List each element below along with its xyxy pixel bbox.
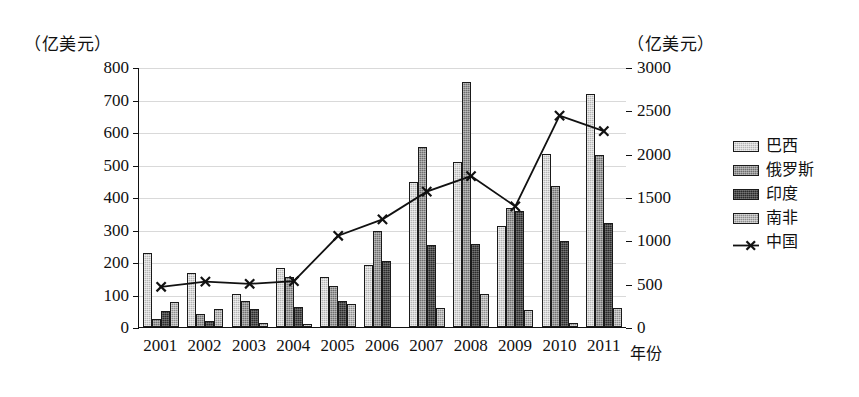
bar-group bbox=[360, 68, 404, 327]
x-axis-tick-label: 2001 bbox=[138, 333, 182, 359]
x-axis-tick-label: 2002 bbox=[182, 333, 226, 359]
right-axis-tick bbox=[626, 241, 632, 242]
bar bbox=[250, 309, 259, 327]
left-axis-tick-label: 300 bbox=[104, 222, 130, 239]
bar-groups bbox=[139, 68, 626, 327]
right-axis-tick bbox=[626, 198, 632, 199]
legend-line-marker-icon bbox=[733, 237, 759, 248]
chart-figure: （亿美元） （亿美元） 0100200300400500600700800 05… bbox=[0, 0, 859, 397]
bar bbox=[453, 162, 462, 327]
right-axis-tick-label: 2500 bbox=[637, 102, 671, 119]
x-axis-tick-label: 2005 bbox=[315, 333, 359, 359]
bar bbox=[436, 308, 445, 327]
bar bbox=[586, 94, 595, 327]
legend-swatch-icon bbox=[733, 141, 759, 152]
bar bbox=[604, 223, 613, 327]
left-axis-tick-label: 0 bbox=[121, 319, 130, 336]
x-axis-tick-label: 2006 bbox=[360, 333, 404, 359]
bar bbox=[170, 302, 179, 327]
legend-item-label: 印度 bbox=[766, 186, 798, 202]
bar bbox=[569, 323, 578, 327]
bar-group bbox=[493, 68, 537, 327]
bar bbox=[497, 226, 506, 327]
x-axis-tick-label: 2009 bbox=[493, 333, 537, 359]
right-axis-tick bbox=[626, 285, 632, 286]
bar-group bbox=[582, 68, 626, 327]
bar bbox=[347, 304, 356, 327]
bar bbox=[471, 244, 480, 327]
bar bbox=[462, 82, 471, 327]
bar bbox=[560, 241, 569, 327]
right-axis-tick bbox=[626, 111, 632, 112]
legend-item[interactable]: 南非 bbox=[733, 206, 853, 230]
legend-item[interactable]: 俄罗斯 bbox=[733, 158, 853, 182]
bar bbox=[214, 309, 223, 327]
bar bbox=[329, 286, 338, 327]
bar bbox=[418, 147, 427, 327]
right-axis-tick-label: 2000 bbox=[637, 146, 671, 163]
bar bbox=[364, 265, 373, 327]
bar bbox=[259, 323, 268, 327]
legend-item[interactable]: 中国 bbox=[733, 230, 853, 254]
legend: 巴西俄罗斯印度南非中国 bbox=[733, 134, 853, 254]
bar-group bbox=[316, 68, 360, 327]
left-axis-unit-label: （亿美元） bbox=[24, 30, 112, 55]
x-axis-tick-label: 2011 bbox=[582, 333, 626, 359]
bar bbox=[409, 182, 418, 327]
left-axis-tick-label: 800 bbox=[104, 59, 130, 76]
plot-area: 0100200300400500600700800 05001000150020… bbox=[138, 68, 626, 328]
bar bbox=[205, 321, 214, 328]
right-axis-tick-label: 500 bbox=[637, 276, 663, 293]
legend-item-label: 俄罗斯 bbox=[766, 162, 814, 178]
x-axis-tick-label: 2004 bbox=[271, 333, 315, 359]
bar bbox=[515, 211, 524, 327]
bar bbox=[152, 319, 161, 327]
right-axis-tick-label: 1500 bbox=[637, 189, 671, 206]
bar bbox=[187, 273, 196, 327]
right-axis-tick-label: 1000 bbox=[637, 232, 671, 249]
bar-group bbox=[139, 68, 183, 327]
bar bbox=[524, 310, 533, 327]
legend-item-label: 南非 bbox=[766, 210, 798, 226]
bar-group bbox=[228, 68, 272, 327]
left-axis-tick-label: 500 bbox=[104, 157, 130, 174]
bar bbox=[382, 261, 391, 327]
bar-group bbox=[272, 68, 316, 327]
bar bbox=[196, 314, 205, 327]
x-axis-tick-label: 2008 bbox=[449, 333, 493, 359]
bar bbox=[285, 277, 294, 327]
legend-swatch-icon bbox=[733, 213, 759, 224]
bar-group bbox=[449, 68, 493, 327]
right-axis-unit-label: （亿美元） bbox=[627, 30, 715, 55]
bar bbox=[338, 301, 347, 327]
x-axis-tick-label: 2007 bbox=[404, 333, 448, 359]
x-axis-tick-label: 2003 bbox=[227, 333, 271, 359]
legend-item[interactable]: 巴西 bbox=[733, 134, 853, 158]
right-axis-tick bbox=[626, 68, 632, 69]
legend-item-label: 中国 bbox=[766, 234, 798, 250]
right-axis-tick-label: 3000 bbox=[637, 59, 671, 76]
bar bbox=[276, 268, 285, 327]
legend-item[interactable]: 印度 bbox=[733, 182, 853, 206]
bar bbox=[241, 301, 250, 327]
left-axis-tick bbox=[133, 328, 139, 329]
legend-swatch-icon bbox=[733, 189, 759, 200]
bar bbox=[161, 311, 170, 327]
bar-group bbox=[537, 68, 581, 327]
bar bbox=[613, 308, 622, 328]
legend-swatch-icon bbox=[733, 165, 759, 176]
bar bbox=[320, 277, 329, 327]
left-axis-tick-label: 600 bbox=[104, 124, 130, 141]
right-axis-tick bbox=[626, 328, 632, 329]
bar bbox=[373, 231, 382, 327]
bar bbox=[480, 294, 489, 327]
bar-group bbox=[183, 68, 227, 327]
left-axis-tick-label: 100 bbox=[104, 287, 130, 304]
bar bbox=[143, 253, 152, 327]
left-axis-tick-label: 200 bbox=[104, 254, 130, 271]
bar bbox=[542, 154, 551, 327]
bar-group bbox=[405, 68, 449, 327]
x-axis-tick-label: 2010 bbox=[537, 333, 581, 359]
bar bbox=[506, 208, 515, 327]
legend-item-label: 巴西 bbox=[766, 138, 798, 154]
